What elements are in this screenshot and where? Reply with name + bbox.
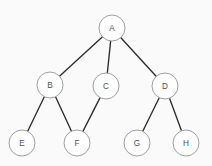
- node-label-d: D: [162, 82, 168, 91]
- node-g[interactable]: G: [124, 130, 150, 156]
- edge-d-h: [169, 98, 181, 132]
- node-label-f: F: [74, 139, 79, 148]
- graph-svg: ABCDEFGH: [0, 0, 212, 166]
- node-label-a: A: [109, 24, 115, 33]
- node-label-b: B: [47, 81, 53, 90]
- node-label-c: C: [103, 82, 109, 91]
- node-h[interactable]: H: [173, 130, 199, 156]
- edge-b-f: [55, 96, 71, 131]
- edge-a-b: [59, 36, 103, 76]
- node-d[interactable]: D: [152, 73, 178, 99]
- node-label-g: G: [134, 139, 141, 148]
- node-f[interactable]: F: [64, 130, 90, 156]
- edge-c-f: [83, 97, 101, 132]
- node-a[interactable]: A: [99, 15, 125, 41]
- node-layer: ABCDEFGH: [9, 15, 199, 156]
- diagram-canvas: ABCDEFGH: [0, 0, 212, 166]
- edge-b-e: [27, 96, 44, 131]
- node-label-e: E: [19, 139, 25, 148]
- node-label-h: H: [183, 139, 189, 148]
- edge-a-c: [107, 40, 110, 73]
- edge-d-g: [143, 97, 160, 132]
- node-b[interactable]: B: [37, 72, 63, 98]
- edge-a-d: [120, 37, 156, 77]
- node-e[interactable]: E: [9, 130, 35, 156]
- node-c[interactable]: C: [93, 73, 119, 99]
